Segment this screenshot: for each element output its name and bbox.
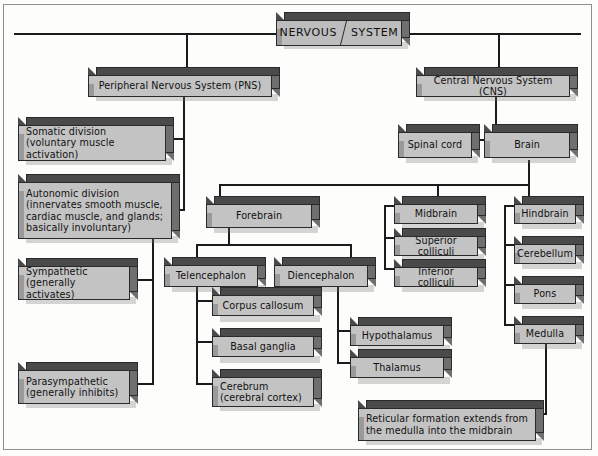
- connector-pns-spine: [183, 96, 185, 211]
- connector-dien-to-thalamus: [337, 362, 351, 364]
- box-bottom-bevel: [402, 38, 410, 46]
- node-label-cerebellum: Cerebellum: [514, 248, 576, 259]
- node-label-sympathetic: Sympathetic (generally activates): [19, 266, 129, 300]
- node-telencephalon[interactable]: Telencephalon: [164, 257, 266, 287]
- connector-telen-to-cerebrum: [196, 383, 213, 385]
- node-label-hypothalamus: Hypothalamus: [351, 330, 443, 341]
- node-cerebellum[interactable]: Cerebellum: [514, 236, 584, 264]
- connector-root-left-stub: [14, 33, 280, 35]
- node-label-diencephalon: Diencephalon: [275, 270, 367, 281]
- node-label-somatic: Somatic division (voluntary muscle activ…: [19, 126, 165, 160]
- node-somatic-division[interactable]: Somatic division (voluntary muscle activ…: [18, 117, 174, 161]
- node-reticular-formation[interactable]: Reticular formation extends from the med…: [358, 400, 544, 441]
- diagram-canvas: NERVOUS SYSTEM Peripheral Nervous System…: [0, 0, 598, 456]
- node-spinal-cord[interactable]: Spinal cord: [398, 124, 480, 158]
- node-label-medulla: Medulla: [515, 328, 575, 339]
- node-label-system: SYSTEM: [344, 27, 402, 38]
- connector-bus-to-diencephalon: [350, 244, 352, 257]
- node-label-autonomic: Autonomic division (innervates smooth mu…: [19, 188, 170, 234]
- node-midbrain[interactable]: Midbrain: [394, 196, 486, 224]
- node-label-nervous: NERVOUS: [276, 27, 344, 38]
- connector-brain-drop: [528, 160, 530, 185]
- connector-telen-to-basal: [196, 341, 213, 343]
- connector-root-to-pns: [186, 33, 188, 67]
- node-pns[interactable]: Peripheral Nervous System (PNS): [88, 67, 280, 97]
- node-label-cns: Central Nervous System (CNS): [417, 75, 569, 97]
- node-thalamus[interactable]: Thalamus: [350, 349, 452, 378]
- box-top-bevel: [276, 12, 284, 20]
- connector-medulla-to-reticular: [545, 343, 547, 415]
- node-autonomic-division[interactable]: Autonomic division (innervates smooth mu…: [18, 174, 180, 239]
- node-label-corpus-callosum: Corpus callosum: [213, 300, 313, 311]
- node-label-basal-ganglia: Basal ganglia: [213, 341, 313, 352]
- node-label-reticular-formation: Reticular formation extends from the med…: [359, 413, 535, 436]
- node-parasympathetic[interactable]: Parasympathetic (generally inhibits): [18, 362, 138, 404]
- connector-autonomic-spine: [152, 237, 154, 383]
- node-label-cerebrum: Cerebrum (cerebral cortex): [213, 381, 309, 404]
- node-forebrain[interactable]: Forebrain: [206, 196, 320, 228]
- node-label-midbrain: Midbrain: [395, 208, 477, 219]
- node-hindbrain[interactable]: Hindbrain: [514, 196, 584, 224]
- node-label-pns: Peripheral Nervous System (PNS): [89, 80, 271, 91]
- node-corpus-callosum[interactable]: Corpus callosum: [212, 287, 322, 316]
- node-label-hindbrain: Hindbrain: [515, 208, 575, 219]
- node-label-superior-colliculi: Superior colliculi: [395, 236, 477, 256]
- node-label-inferior-colliculi: Inferior colliculi: [395, 267, 477, 287]
- node-basal-ganglia[interactable]: Basal ganglia: [212, 328, 322, 357]
- node-medulla[interactable]: Medulla: [514, 316, 584, 344]
- node-sympathetic[interactable]: Sympathetic (generally activates): [18, 258, 138, 300]
- connector-root-right-stub: [405, 33, 581, 35]
- node-inferior-colliculi[interactable]: Inferior colliculi: [394, 259, 486, 287]
- box-side-face: [402, 20, 410, 38]
- node-cns[interactable]: Central Nervous System (CNS): [416, 67, 578, 97]
- node-label-parasympathetic: Parasympathetic (generally inhibits): [19, 376, 125, 399]
- node-pons[interactable]: Pons: [514, 276, 584, 304]
- node-label-pons: Pons: [515, 288, 575, 299]
- node-brain[interactable]: Brain: [484, 124, 578, 158]
- node-nervous-system[interactable]: NERVOUS SYSTEM: [276, 12, 410, 46]
- node-hypothalamus[interactable]: Hypothalamus: [350, 317, 452, 346]
- box-top-face: [284, 12, 410, 20]
- connector-telen-to-corpus: [196, 300, 213, 302]
- node-cerebrum[interactable]: Cerebrum (cerebral cortex): [212, 369, 322, 407]
- node-label-brain: Brain: [485, 139, 569, 150]
- node-label-telencephalon: Telencephalon: [165, 270, 257, 281]
- connector-brain-bus: [219, 184, 530, 186]
- node-superior-colliculi[interactable]: Superior colliculi: [394, 228, 486, 256]
- connector-forebrain-bus: [196, 244, 352, 246]
- node-label-forebrain: Forebrain: [207, 210, 311, 221]
- connector-diencephalon-spine: [337, 284, 339, 363]
- node-diencephalon[interactable]: Diencephalon: [274, 257, 376, 287]
- connector-bus-to-telencephalon: [196, 244, 198, 257]
- connector-hindbrain-spine: [504, 205, 506, 324]
- node-label-thalamus: Thalamus: [351, 362, 443, 373]
- node-label-spinal-cord: Spinal cord: [399, 139, 471, 150]
- connector-dien-to-hypothalamus: [337, 330, 351, 332]
- connector-telencephalon-spine: [196, 284, 198, 383]
- connector-root-to-cns: [498, 33, 500, 67]
